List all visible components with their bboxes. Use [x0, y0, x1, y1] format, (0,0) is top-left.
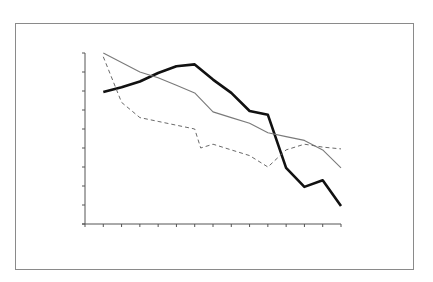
- series-line-thick-black: [103, 64, 341, 206]
- chart-series: [103, 53, 341, 206]
- line-chart: [0, 0, 433, 282]
- series-line-thin-gray: [103, 53, 341, 168]
- series-line-dashed-gray: [103, 57, 341, 167]
